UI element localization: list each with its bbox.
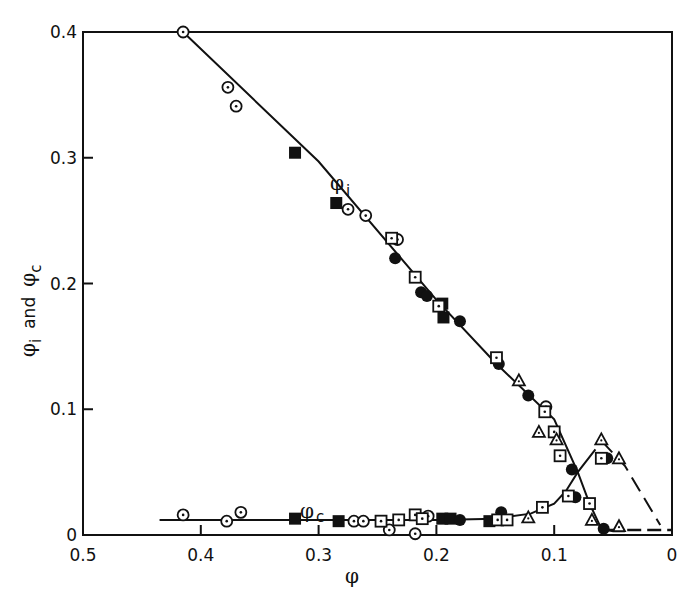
marker-dot bbox=[182, 31, 185, 34]
marker-open-triangle bbox=[613, 452, 625, 463]
y-tick-label: 0.3 bbox=[50, 148, 77, 168]
marker-dot bbox=[495, 356, 498, 359]
chart-figure: 0.50.40.30.20.1000.10.20.30.4 φi φc φ φi… bbox=[0, 0, 697, 601]
marker-dot bbox=[506, 519, 509, 522]
data-markers bbox=[178, 27, 625, 540]
y-axis-title: φiandφc bbox=[16, 265, 45, 357]
marker-dot bbox=[518, 380, 520, 382]
marker-open-triangle bbox=[513, 374, 525, 385]
marker-open-triangle bbox=[613, 520, 625, 531]
marker-dot bbox=[559, 454, 562, 457]
marker-filled-square bbox=[330, 197, 342, 209]
marker-dot bbox=[567, 495, 570, 498]
marker-dot bbox=[414, 276, 417, 279]
marker-dot bbox=[362, 520, 365, 523]
marker-dot bbox=[414, 532, 417, 535]
marker-filled-circle bbox=[389, 252, 401, 264]
series-label-phi-i: φi bbox=[330, 171, 350, 200]
marker-dot bbox=[543, 410, 546, 413]
marker-dot bbox=[397, 519, 400, 522]
y-tick-label: 0.1 bbox=[50, 399, 77, 419]
marker-dot bbox=[390, 237, 393, 240]
marker-dot bbox=[527, 517, 529, 519]
marker-dot bbox=[421, 517, 424, 520]
marker-filled-square bbox=[289, 147, 301, 159]
marker-dot bbox=[240, 511, 243, 514]
marker-filled-circle bbox=[454, 315, 466, 327]
marker-dot bbox=[588, 502, 591, 505]
marker-dot bbox=[553, 431, 556, 434]
marker-dot bbox=[380, 520, 383, 523]
axis-ticks bbox=[83, 158, 554, 535]
marker-dot bbox=[541, 506, 544, 509]
marker-dot bbox=[600, 457, 603, 460]
marker-filled-square bbox=[333, 515, 345, 527]
fit-curve bbox=[160, 449, 596, 519]
marker-dot bbox=[437, 305, 440, 308]
marker-dot bbox=[235, 105, 238, 108]
y-tick-label: 0.2 bbox=[50, 274, 77, 294]
marker-filled-circle bbox=[522, 389, 534, 401]
y-tick-label: 0.4 bbox=[50, 22, 77, 42]
marker-dot bbox=[618, 526, 620, 528]
marker-dot bbox=[388, 529, 391, 532]
marker-dot bbox=[591, 520, 593, 522]
marker-filled-circle bbox=[566, 464, 578, 476]
x-tick-label: 0 bbox=[667, 545, 678, 565]
marker-dot bbox=[347, 208, 350, 211]
x-tick-label: 0.3 bbox=[305, 545, 332, 565]
marker-dot bbox=[600, 439, 602, 441]
marker-dot bbox=[225, 520, 228, 523]
marker-filled-circle bbox=[598, 523, 610, 535]
x-tick-label: 0.4 bbox=[187, 545, 214, 565]
axis-tick-labels: 0.50.40.30.20.1000.10.20.30.4 bbox=[50, 22, 677, 565]
marker-dot bbox=[353, 520, 356, 523]
marker-dot bbox=[618, 458, 620, 460]
marker-filled-square bbox=[437, 311, 449, 323]
x-tick-label: 0.5 bbox=[69, 545, 96, 565]
series-label-phi-c: φc bbox=[300, 499, 324, 526]
marker-filled-circle bbox=[454, 514, 466, 526]
marker-dot bbox=[555, 439, 557, 441]
marker-dot bbox=[364, 214, 367, 217]
marker-open-triangle bbox=[533, 426, 545, 437]
plot-frame bbox=[83, 32, 672, 535]
marker-dot bbox=[496, 519, 499, 522]
x-axis-title: φ bbox=[345, 564, 359, 588]
y-tick-label: 0 bbox=[66, 525, 77, 545]
x-tick-label: 0.1 bbox=[541, 545, 568, 565]
x-tick-label: 0.2 bbox=[423, 545, 450, 565]
marker-dot bbox=[182, 514, 185, 517]
marker-dot bbox=[227, 86, 230, 89]
marker-filled-circle bbox=[421, 290, 433, 302]
marker-dot bbox=[538, 432, 540, 434]
marker-open-triangle bbox=[595, 433, 607, 444]
